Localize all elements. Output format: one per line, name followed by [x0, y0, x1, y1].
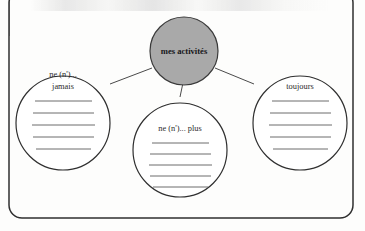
center-node-mes-activites[interactable]: mes activités — [150, 17, 218, 85]
branch-circle-jamais[interactable]: ne (n')... jamais — [16, 70, 110, 170]
branch-label-jamais-line-2: jamais — [51, 82, 74, 91]
mind-map-diagram: ne (n')... jamais ne (n')... plus — [0, 0, 365, 231]
branch-label-toujours-line-1: toujours — [286, 82, 313, 91]
branch-circle-plus[interactable]: ne (n')... plus — [133, 103, 227, 197]
connector-center-to-toujours — [215, 68, 254, 84]
branch-circle-toujours[interactable]: toujours — [253, 76, 347, 170]
worksheet-page: ne (n')... jamais ne (n')... plus — [0, 0, 365, 231]
connector-center-to-jamais — [110, 68, 152, 84]
branch-label-jamais-line-1: ne (n')... — [49, 70, 77, 79]
branch-label-plus-line-1: ne (n')... plus — [158, 124, 202, 133]
branch-circle-plus-shape — [133, 103, 227, 197]
center-node-label: mes activités — [161, 46, 208, 56]
